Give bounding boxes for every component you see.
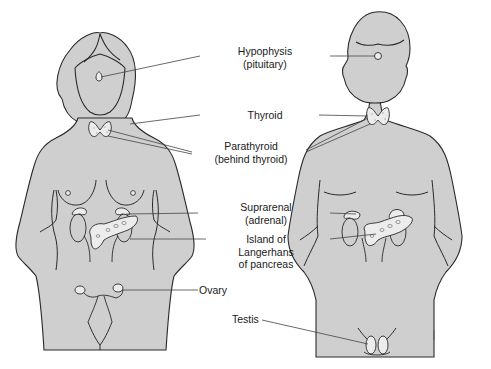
label-islets-line1: Island of — [210, 233, 322, 246]
male-left-adrenal — [344, 211, 360, 219]
label-suprarenal-line1: Suprarenal — [210, 201, 322, 214]
female-left-ovary — [75, 286, 85, 294]
male-left-testis — [366, 336, 376, 354]
male-right-testis — [378, 336, 388, 354]
label-ovary: Ovary — [199, 284, 227, 297]
label-testis: Testis — [232, 313, 259, 326]
label-thyroid: Thyroid — [215, 109, 315, 122]
female-figure — [16, 33, 194, 350]
label-parathyroid-line2: (behind thyroid) — [195, 153, 307, 166]
label-parathyroid: Parathyroid (behind thyroid) — [195, 140, 307, 165]
label-parathyroid-line1: Parathyroid — [195, 140, 307, 153]
label-testis-line1: Testis — [232, 313, 259, 326]
label-thyroid-line1: Thyroid — [215, 109, 315, 122]
endocrine-diagram: Hypophysis (pituitary) Thyroid Parathyro… — [0, 0, 491, 369]
label-suprarenal: Suprarenal (adrenal) — [210, 201, 322, 226]
label-ovary-line1: Ovary — [199, 284, 227, 297]
male-left-kidney — [342, 218, 358, 246]
label-hypophysis: Hypophysis (pituitary) — [215, 45, 315, 70]
male-pituitary — [375, 53, 382, 60]
label-suprarenal-line2: (adrenal) — [210, 214, 322, 227]
label-islets-of-langerhans: Island of Langerhans of pancreas — [210, 233, 322, 271]
label-islets-line3: of pancreas — [210, 258, 322, 271]
female-pituitary — [96, 72, 102, 81]
female-left-kidney — [70, 214, 86, 242]
label-islets-line2: Langerhans — [210, 246, 322, 259]
label-hypophysis-line1: Hypophysis — [215, 45, 315, 58]
label-hypophysis-line2: (pituitary) — [215, 58, 315, 71]
female-right-ovary — [113, 284, 123, 292]
